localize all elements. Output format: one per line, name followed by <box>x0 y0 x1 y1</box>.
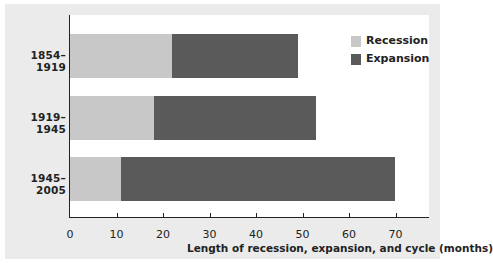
category-label: 1919–1945 <box>8 111 66 135</box>
x-tick <box>256 213 257 218</box>
x-axis-line <box>69 217 429 218</box>
bar-1919–1945 <box>70 96 316 140</box>
x-tick-label: 30 <box>195 228 225 241</box>
legend-swatch-expansion <box>351 54 361 65</box>
bar-segment-recession <box>70 96 154 140</box>
x-tick-label: 20 <box>148 228 178 241</box>
x-tick <box>117 213 118 218</box>
bar-segment-expansion <box>121 157 395 201</box>
x-axis-label: Length of recession, expansion, and cycl… <box>187 242 493 254</box>
legend-label-recession: Recession <box>366 34 428 47</box>
category-label: 1854–1919 <box>8 49 66 73</box>
x-tick-label: 60 <box>334 228 364 241</box>
x-tick <box>163 213 164 218</box>
legend-swatch-recession <box>351 36 361 47</box>
bar-segment-recession <box>70 34 172 78</box>
bar-1854–1919 <box>70 34 298 78</box>
x-tick-label: 50 <box>288 228 318 241</box>
x-tick <box>396 213 397 218</box>
x-tick <box>210 213 211 218</box>
x-tick <box>349 213 350 218</box>
bar-1945–2005 <box>70 157 396 201</box>
bar-segment-recession <box>70 157 121 201</box>
x-tick <box>303 213 304 218</box>
x-tick-label: 0 <box>55 228 85 241</box>
bar-segment-expansion <box>154 96 317 140</box>
x-tick-label: 10 <box>102 228 132 241</box>
bar-segment-expansion <box>172 34 298 78</box>
y-axis-line <box>69 15 70 218</box>
x-tick-label: 70 <box>381 228 411 241</box>
x-tick-label: 40 <box>241 228 271 241</box>
category-label: 1945–2005 <box>8 172 66 196</box>
legend-label-expansion: Expansion <box>366 52 429 65</box>
